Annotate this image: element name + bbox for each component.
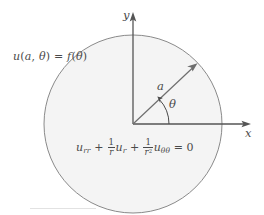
- pde-fraction-1-denominator: r: [108, 147, 116, 157]
- pde-u-r-base: u: [116, 141, 123, 154]
- boundary-condition-label: u(a, θ) = f(θ): [13, 51, 87, 62]
- pde-equation: urr + 1rur + 1r2uθθ = 0: [76, 138, 194, 157]
- pde-u-rr: urr: [76, 141, 91, 154]
- bc-theta: θ: [39, 50, 46, 63]
- laplace-disk-diagram: u(a, θ) = f(θ) y x a θ urr + 1rur + 1r2u…: [0, 0, 264, 215]
- pde-u-r: ur: [116, 141, 127, 154]
- pde-rhs: 0: [187, 141, 194, 154]
- bc-comma: ,: [32, 50, 39, 63]
- bc-close-paren-2: ): [83, 50, 88, 63]
- angle-label: θ: [169, 99, 176, 111]
- diagram-canvas: [0, 0, 264, 215]
- y-axis-label: y: [123, 10, 130, 22]
- pde-u-theta-theta-sub: θθ: [161, 146, 170, 155]
- pde-fraction-2-denominator-exponent: 2: [149, 148, 152, 154]
- pde-fraction-2: 1r2: [143, 138, 153, 157]
- radius-label: a: [157, 81, 164, 93]
- pde-fraction-1-numerator: 1: [108, 138, 116, 147]
- bc-theta-2: θ: [76, 50, 83, 63]
- pde-fraction-2-denominator: r2: [143, 147, 153, 157]
- bc-equals: =: [50, 50, 67, 63]
- pde-u-theta-theta: uθθ: [154, 141, 170, 154]
- pde-fraction-1: 1r: [108, 138, 116, 157]
- pde-plus-1: +: [91, 141, 108, 154]
- bc-a: a: [25, 50, 32, 63]
- pde-u-rr-sub: rr: [83, 146, 90, 155]
- pde-u-theta-theta-base: u: [154, 141, 161, 154]
- pde-fraction-2-numerator: 1: [143, 138, 153, 147]
- pde-equals: =: [170, 141, 187, 154]
- x-axis-label: x: [245, 128, 252, 140]
- pde-plus-2: +: [126, 141, 143, 154]
